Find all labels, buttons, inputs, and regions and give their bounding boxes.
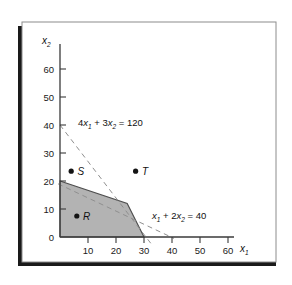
- x-tick-label-10: 10: [83, 245, 94, 256]
- y-tick-label-10: 10: [43, 204, 54, 215]
- x-axis-label-sub: 1: [245, 249, 249, 256]
- y-tick-label-60: 60: [43, 64, 54, 75]
- x-tick-label-60: 60: [223, 245, 234, 256]
- data-point-S: [69, 169, 74, 174]
- data-point-R: [74, 213, 79, 218]
- y-tick-label-50: 50: [43, 92, 54, 103]
- data-point-label-S: S: [78, 166, 85, 177]
- origin-label: 0: [49, 232, 54, 243]
- eq1-rhs: = 120: [116, 117, 143, 128]
- data-point-label-R: R: [83, 211, 90, 222]
- eq2-coef-b: + 2: [160, 210, 176, 221]
- eq1-coef-b: + 3: [92, 117, 108, 128]
- linear-programming-chart: 60 50 40 30 20 10 0 10 20 30 40 50 60 x2…: [0, 0, 292, 285]
- x-tick-label-40: 40: [167, 245, 178, 256]
- x-tick-label-50: 50: [195, 245, 206, 256]
- y-tick-label-40: 40: [43, 120, 54, 131]
- x-tick-label-20: 20: [111, 245, 122, 256]
- y-tick-label-30: 30: [43, 148, 54, 159]
- y-tick-label-20: 20: [43, 176, 54, 187]
- equation-label-4x1-3x2-120: 4x1 + 3x2 = 120: [78, 117, 143, 130]
- figure-container: 60 50 40 30 20 10 0 10 20 30 40 50 60 x2…: [0, 0, 292, 285]
- data-point-label-T: T: [142, 166, 149, 177]
- eq2-rhs: = 40: [185, 210, 206, 221]
- y-axis-label-sub: 2: [46, 41, 51, 48]
- x-tick-label-30: 30: [139, 245, 150, 256]
- data-point-T: [133, 169, 138, 174]
